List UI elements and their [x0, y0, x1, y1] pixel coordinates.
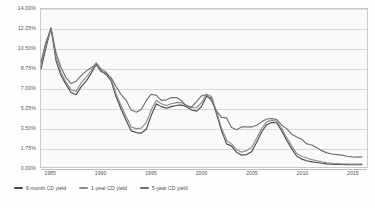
- x-axis-tick-label: 1985: [44, 170, 56, 176]
- x-axis-tick-label: 1995: [145, 170, 157, 176]
- y-axis-tick-label: 12.25%: [18, 25, 36, 31]
- y-axis-tick-label: 8.75%: [21, 65, 36, 71]
- y-axis-tick-label: 1.75%: [21, 145, 36, 151]
- legend-label: 1-year CD yield: [91, 185, 127, 191]
- cd-yield-line-chart: 0.00%1.75%3.50%5.25%7.00%8.75%10.50%12.2…: [0, 0, 375, 208]
- x-axis-labels: 1985199019952000200520102015: [0, 170, 375, 182]
- legend-swatch-icon: [79, 187, 88, 189]
- legend-swatch-icon: [14, 187, 23, 189]
- legend-item[interactable]: 6-month CD yield: [14, 185, 66, 191]
- y-axis-tick-label: 14.00%: [18, 5, 36, 11]
- legend-item[interactable]: 5-year CD yield: [140, 185, 188, 191]
- chart-legend: 6-month CD yield1-year CD yield5-year CD…: [14, 185, 188, 191]
- x-axis-tick-label: 2000: [196, 170, 208, 176]
- x-axis-tick-label: 2005: [246, 170, 258, 176]
- x-axis-tick-label: 1990: [95, 170, 107, 176]
- y-axis-tick-label: 3.50%: [21, 125, 36, 131]
- y-axis-tick-label: 5.25%: [21, 105, 36, 111]
- y-axis-tick-label: 10.50%: [18, 45, 36, 51]
- x-axis-tick-label: 2010: [297, 170, 309, 176]
- legend-label: 5-year CD yield: [152, 185, 188, 191]
- legend-item[interactable]: 1-year CD yield: [79, 185, 127, 191]
- legend-swatch-icon: [140, 187, 149, 189]
- plot-area: [40, 8, 368, 168]
- series-line-2: [41, 29, 362, 157]
- x-axis-tick-label: 2015: [347, 170, 359, 176]
- legend-label: 6-month CD yield: [26, 185, 66, 191]
- y-axis-tick-label: 7.00%: [21, 85, 36, 91]
- series-layer: [41, 9, 367, 167]
